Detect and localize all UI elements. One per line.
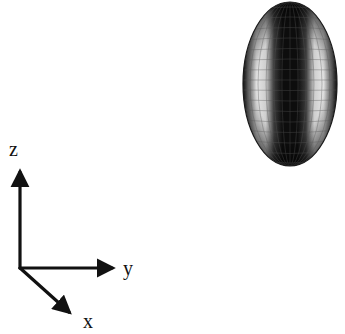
coordinate-axes xyxy=(20,172,112,312)
y-axis-label: y xyxy=(123,258,133,278)
z-axis-label: z xyxy=(9,139,18,159)
ellipsoid xyxy=(243,2,337,166)
figure-canvas xyxy=(0,0,345,334)
x-axis-label: x xyxy=(83,311,93,331)
x-axis-arrow xyxy=(20,268,69,312)
